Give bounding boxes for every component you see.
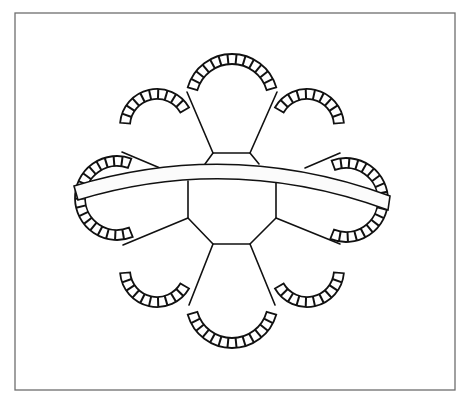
rim-segment-divider (340, 158, 341, 168)
rim-segment-divider (227, 338, 228, 348)
rim-segment-divider (349, 158, 350, 168)
rim-segment-divider (121, 156, 122, 166)
rim-segment-divider (227, 54, 228, 64)
rosette-drawing (0, 0, 466, 400)
rim-segment-divider (236, 338, 237, 348)
figure-canvas (0, 0, 466, 400)
rim-segment-divider (114, 156, 115, 166)
rim-segment-divider (236, 54, 237, 64)
